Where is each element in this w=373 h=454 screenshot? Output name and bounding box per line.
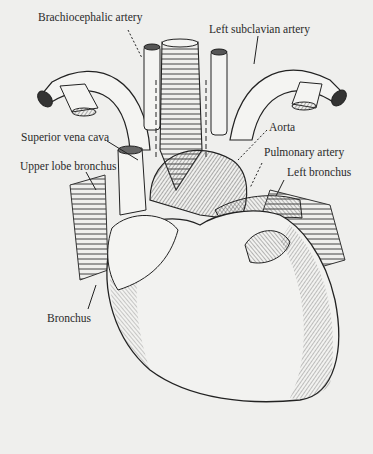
label-left-bronchus: Left bronchus [287, 167, 351, 179]
label-brachiocephalic-artery: Brachiocephalic artery [38, 12, 142, 24]
heart-diagram: Brachiocephalic artery Left subclavian a… [0, 0, 373, 454]
label-bronchus: Bronchus [47, 313, 91, 325]
label-left-subclavian-artery: Left subclavian artery [209, 24, 310, 36]
label-aorta: Aorta [269, 122, 295, 134]
label-pulmonary-artery: Pulmonary artery [264, 147, 344, 159]
label-upper-lobe-bronchus: Upper lobe bronchus [20, 161, 116, 173]
heart-illustration [0, 0, 373, 454]
label-superior-vena-cava: Superior vena cava [21, 132, 109, 144]
